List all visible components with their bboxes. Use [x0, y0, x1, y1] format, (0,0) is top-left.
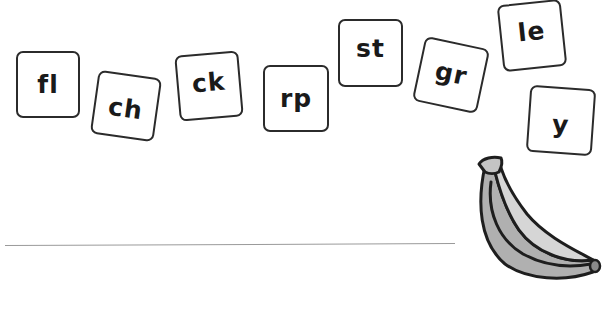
- answer-writing-line[interactable]: [5, 243, 455, 246]
- letter-tile-le[interactable]: le: [497, 0, 568, 72]
- tile-label: st: [356, 34, 385, 63]
- tile-label: fl: [37, 70, 58, 99]
- letter-tile-st[interactable]: st: [338, 19, 403, 87]
- letter-tile-rp[interactable]: rp: [263, 65, 329, 132]
- letter-tile-ck[interactable]: ck: [174, 50, 244, 121]
- tile-label: y: [551, 109, 570, 139]
- banana-icon: [465, 152, 605, 292]
- tile-label: ch: [107, 91, 145, 125]
- tile-label: rp: [280, 84, 312, 113]
- letter-tile-fl[interactable]: fl: [16, 51, 80, 118]
- letter-tile-y[interactable]: y: [526, 85, 597, 156]
- letter-tile-ch[interactable]: ch: [90, 70, 162, 142]
- tile-label: le: [516, 16, 546, 48]
- tile-label: ck: [191, 66, 227, 98]
- letter-tile-gr[interactable]: gr: [412, 36, 490, 114]
- tile-label: gr: [433, 56, 471, 91]
